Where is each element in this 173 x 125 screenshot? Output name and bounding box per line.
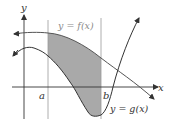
curve-f-left-arrow (14, 34, 20, 35)
shaded-area-region (48, 33, 101, 116)
x-axis-label: x (158, 82, 164, 93)
bound-a-label: a (39, 90, 45, 101)
curve-f-label: y = f(x) (57, 20, 94, 31)
y-axis-label: y (20, 2, 27, 13)
area-between-curves-diagram: y x a b y = f(x) y = g(x) (0, 0, 173, 125)
bound-b-label: b (103, 90, 109, 101)
curve-g-label: y = g(x) (109, 103, 149, 114)
